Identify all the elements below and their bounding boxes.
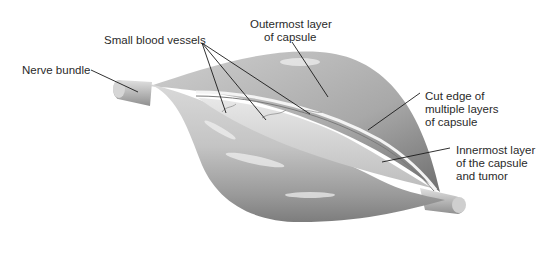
- label-cut-edge-line1: Cut edge of: [425, 90, 484, 103]
- label-innermost-layer-line1: Innermost layer: [456, 144, 535, 157]
- nerve-stub-left: [113, 80, 152, 106]
- diagram-canvas: Small blood vessels Nerve bundle Outermo…: [0, 0, 549, 261]
- label-outermost-layer-line2: of capsule: [264, 31, 316, 44]
- label-small-blood-vessels: Small blood vessels: [104, 34, 206, 47]
- label-cut-edge-line2: multiple layers: [425, 103, 499, 116]
- label-innermost-layer-line3: and tumor: [456, 170, 508, 183]
- label-cut-edge-line3: of capsule: [425, 116, 477, 129]
- label-innermost-layer-line2: of the capsule: [456, 157, 528, 170]
- label-nerve-bundle: Nerve bundle: [22, 64, 90, 77]
- label-outermost-layer-line1: Outermost layer: [250, 18, 332, 31]
